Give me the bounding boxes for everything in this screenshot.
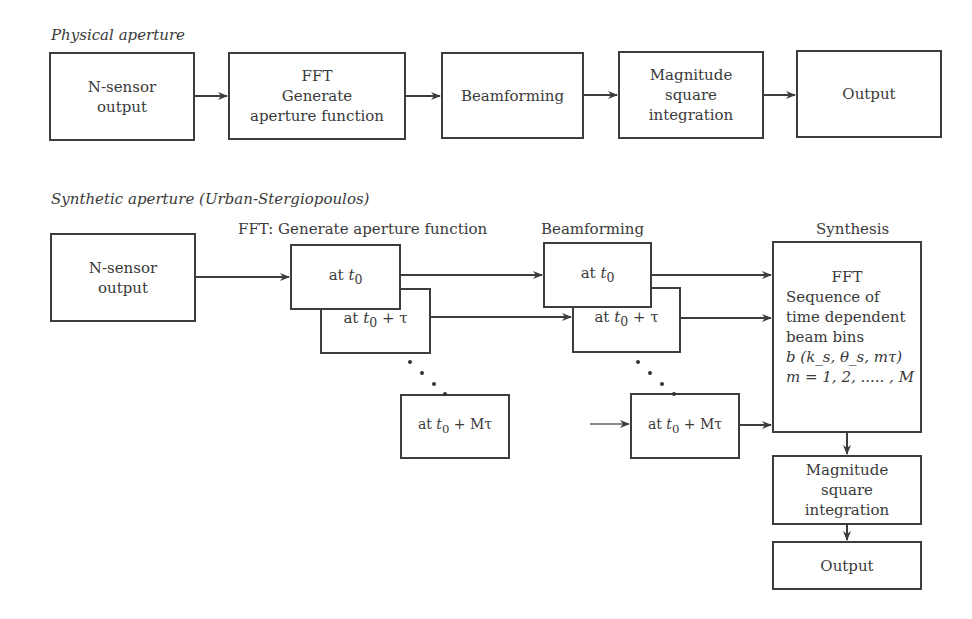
ellipsis-dot [672, 392, 676, 396]
box-text: Magnitude [806, 460, 889, 480]
box-text: square [821, 480, 873, 500]
fft-header: FFT: Generate aperture function [238, 220, 487, 238]
synthesis-range: m = 1, 2, ..... , M [786, 367, 914, 387]
box-text: integration [649, 105, 734, 125]
synthesis-formula: b (k_s, θ_s, mτ) [786, 347, 902, 367]
box-text: at t0 [581, 263, 615, 288]
physical-magnitude-box: Magnitude square integration [618, 51, 764, 139]
physical-fft-box: FFT Generate aperture function [228, 52, 406, 140]
fft-box-t0: at t0 [290, 244, 401, 310]
synthetic-magnitude-box: Magnitude square integration [772, 455, 922, 525]
box-text: at t0 + Mτ [648, 414, 722, 439]
synthesis-box: FFT Sequence of time dependent beam bins… [772, 241, 922, 433]
synthesis-title: FFT [832, 267, 863, 287]
ellipsis-dot [648, 371, 652, 375]
box-text: Sequence of [786, 287, 880, 307]
diagram-canvas: Physical aperture N-sensor output FFT Ge… [0, 0, 972, 619]
box-text: output [98, 278, 148, 298]
ellipsis-dot [636, 360, 640, 364]
beam-box-t0-mtau: at t0 + Mτ [630, 393, 740, 459]
synthetic-aperture-title: Synthetic aperture (Urban-Stergiopoulos) [51, 190, 369, 208]
physical-aperture-title: Physical aperture [51, 26, 185, 44]
box-text: Magnitude [650, 65, 733, 85]
box-text: time dependent [786, 307, 905, 327]
box-text: square [665, 85, 717, 105]
box-text: Generate [282, 86, 352, 106]
beamforming-header: Beamforming [541, 220, 644, 238]
ellipsis-dot [432, 382, 436, 386]
box-text: at t0 [329, 265, 363, 290]
box-text: N-sensor [88, 77, 156, 97]
box-text: aperture function [250, 106, 384, 126]
box-text: at t0 + τ [343, 308, 407, 333]
box-text: output [97, 97, 147, 117]
physical-sensor-box: N-sensor output [49, 52, 195, 141]
ellipsis-dot [443, 392, 447, 396]
physical-output-box: Output [796, 50, 942, 138]
box-text: Output [820, 556, 873, 576]
box-text: at t0 + τ [594, 307, 658, 332]
physical-beamforming-box: Beamforming [441, 52, 584, 139]
ellipsis-dot [408, 360, 412, 364]
box-text: beam bins [786, 327, 864, 347]
beam-box-t0: at t0 [543, 242, 652, 308]
box-text: integration [805, 500, 890, 520]
fft-box-t0-mtau: at t0 + Mτ [400, 394, 510, 459]
ellipsis-dot [420, 371, 424, 375]
box-text: at t0 + Mτ [418, 414, 492, 439]
box-text: N-sensor [89, 258, 157, 278]
box-text: FFT [302, 66, 333, 86]
synthetic-output-box: Output [772, 541, 922, 590]
box-text: Output [842, 84, 895, 104]
ellipsis-dot [660, 382, 664, 386]
synthesis-header: Synthesis [816, 220, 889, 238]
synthetic-sensor-box: N-sensor output [50, 233, 196, 322]
box-text: Beamforming [461, 86, 564, 106]
